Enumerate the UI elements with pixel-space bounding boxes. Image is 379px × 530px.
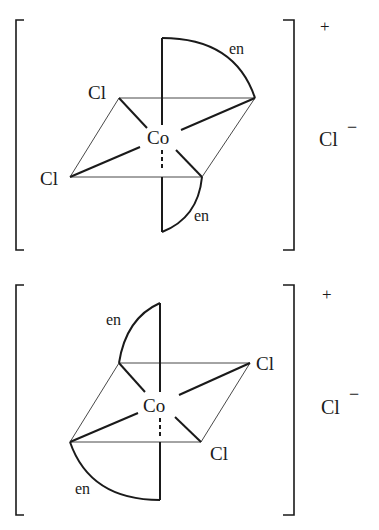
cl-label-upper: Cl — [256, 353, 274, 374]
cl-label-lower: Cl — [40, 168, 58, 189]
en-label-upper: en — [106, 311, 121, 328]
counter-ion-symbol: Cl — [321, 396, 340, 418]
charge-label: + — [320, 17, 330, 36]
en-label-lower: en — [194, 207, 209, 224]
cl-label-lower: Cl — [210, 443, 228, 464]
diagram-canvas: Co en en Cl Cl + Cl − Co en e — [0, 0, 379, 530]
right-bracket — [283, 285, 294, 515]
metal-label: Co — [143, 395, 165, 416]
cl-label-upper: Cl — [88, 82, 106, 103]
left-bracket — [16, 20, 24, 250]
counter-ion-symbol: Cl — [319, 128, 338, 150]
counter-ion-charge: − — [349, 384, 359, 404]
complex-top: Co en en Cl Cl + Cl − — [16, 17, 357, 250]
en-arc-upper — [119, 303, 160, 363]
en-label-upper: en — [229, 40, 244, 57]
charge-label: + — [322, 285, 332, 304]
left-bracket — [16, 285, 24, 515]
metal-label: Co — [147, 127, 169, 148]
counter-ion-charge: − — [347, 117, 357, 137]
en-label-lower: en — [75, 480, 90, 497]
complex-bottom: Co en en Cl Cl + Cl − — [16, 285, 359, 515]
right-bracket — [283, 20, 294, 250]
